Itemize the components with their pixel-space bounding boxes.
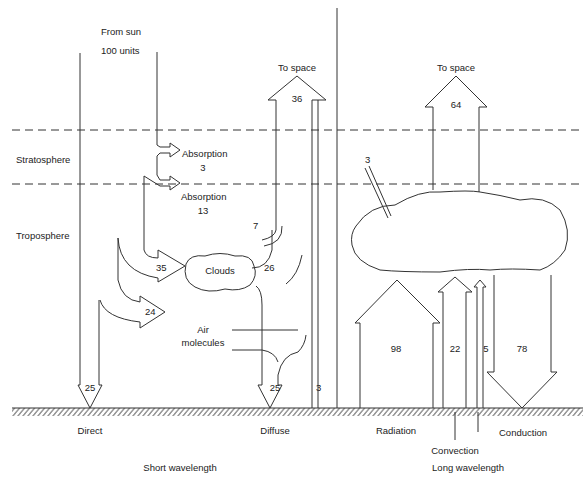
diffuse-label: Diffuse xyxy=(260,426,289,436)
long-wave-label: Long wavelength xyxy=(432,463,504,473)
back-radiation-78-value: 78 xyxy=(517,344,528,354)
absorption-strat-value: 3 xyxy=(200,163,205,173)
to-space-64-value: 64 xyxy=(451,100,462,110)
surface-reflect-value: 3 xyxy=(316,383,321,393)
convection-22-value: 22 xyxy=(450,344,461,354)
direct-label: Direct xyxy=(78,426,103,436)
conduction-label: Conduction xyxy=(499,428,547,438)
cloud-reflect-value: 7 xyxy=(253,221,258,231)
long-clouds xyxy=(352,191,568,272)
air-label-2: molecules xyxy=(182,338,225,348)
short-wave-label: Short wavelength xyxy=(143,463,216,473)
to-clouds-arrow xyxy=(118,176,185,282)
clouds-label: Clouds xyxy=(205,266,235,276)
absorbed-3-value: 3 xyxy=(365,155,370,165)
absorption-arrows xyxy=(144,52,180,190)
ground-hatch xyxy=(12,408,583,416)
radiation-label: Radiation xyxy=(376,426,416,436)
back-radiation-78-arrow xyxy=(487,275,557,408)
to-space-64-arrow xyxy=(425,76,487,192)
from-sun-label: From sun xyxy=(101,27,141,37)
absorption-trop-label: Absorption xyxy=(181,192,226,202)
energy-budget-diagram: From sun 100 units Stratosphere Troposph… xyxy=(0,0,587,480)
cloud-diffuse-value: 26 xyxy=(264,263,275,273)
diffuse-arrow xyxy=(256,286,306,408)
absorption-strat-label: Absorption xyxy=(182,149,227,159)
to-space-36-label: To space xyxy=(278,63,316,73)
to-air-value: 24 xyxy=(145,307,156,317)
to-space-64-label: To space xyxy=(437,63,475,73)
radiation-98-value: 98 xyxy=(391,344,402,354)
convection-label: Convection xyxy=(431,446,479,456)
absorption-trop-value: 13 xyxy=(198,206,209,216)
to-clouds-value: 35 xyxy=(156,263,167,273)
stratosphere-label: Stratosphere xyxy=(16,155,70,165)
diffuse-value: 25 xyxy=(270,383,281,393)
cloud-diffuse-curve xyxy=(252,230,302,284)
absorbed-3-arrow xyxy=(365,166,391,218)
direct-value: 25 xyxy=(85,383,96,393)
units-label: 100 units xyxy=(101,46,140,56)
to-space-36-value: 36 xyxy=(292,94,303,104)
air-label-1: Air xyxy=(197,325,209,335)
conduction-5-value: 5 xyxy=(483,344,488,354)
direct-arrow xyxy=(78,53,102,408)
troposphere-label: Troposphere xyxy=(16,231,70,241)
